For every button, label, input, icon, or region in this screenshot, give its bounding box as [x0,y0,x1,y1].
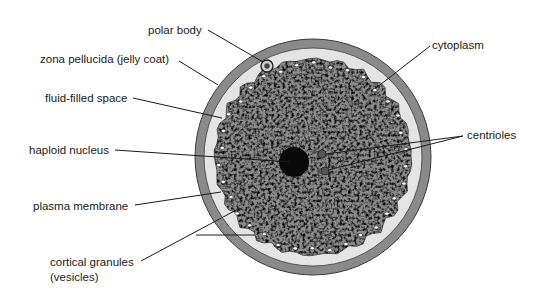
cortical-granule [396,114,400,117]
cortical-granule [373,89,377,92]
cortical-granule [226,113,230,116]
cortical-granule [276,243,280,246]
cortical-granule [294,64,298,67]
label-cortical-granules: cortical granules [50,255,134,269]
centriole [318,150,326,158]
label-fluid-filled-space: fluid-filled space [45,91,127,105]
cortical-granule [358,233,362,236]
label-cortical-granules-sub: (vesicles) [50,270,99,284]
cortical-granule [279,70,283,73]
cortical-granule [249,86,253,89]
label-polar-body: polar body [148,23,202,37]
cortical-granule [402,182,406,185]
cortical-granule [399,131,403,134]
cortical-granule [262,75,266,78]
cortical-granule [374,226,378,229]
cortical-granule [403,165,407,168]
leader-line-zona-pellucida [179,61,218,85]
cortical-granule [217,163,221,166]
label-zona-pellucida: zona pellucida (jelly coat) [40,52,169,66]
cortical-granule [310,247,314,250]
label-cytoplasm: cytoplasm [432,38,484,52]
cortical-granule [221,129,225,132]
cortical-granule [361,75,365,78]
label-plasma-membrane: plasma membrane [33,199,128,213]
cortical-granule [238,100,242,103]
cortical-granule [248,224,252,227]
leader-line-polar-body [208,30,263,62]
cortical-granule [220,146,224,149]
label-haploid-nucleus: haploid nucleus [29,143,109,157]
cortical-granule [327,249,331,252]
cortical-granule [229,195,233,198]
cortical-granule [221,180,225,183]
cortical-granule [262,233,266,236]
cortical-granule [235,212,239,215]
cortical-granule [385,212,389,215]
cortical-granule [312,61,316,64]
cortical-granule [328,66,332,69]
cortical-granule [344,242,348,245]
centriole [321,167,329,175]
cortical-granule [345,69,349,72]
cortical-granule [386,100,390,103]
label-centrioles: centrioles [467,128,516,142]
cortical-granule [392,197,396,200]
cortical-granule [293,247,297,250]
